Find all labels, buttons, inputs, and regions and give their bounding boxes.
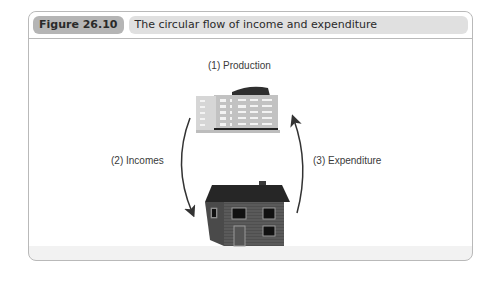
production-label: (1) Production bbox=[208, 60, 271, 71]
circular-flow-diagram bbox=[0, 0, 502, 285]
office-building-icon bbox=[196, 87, 280, 133]
expenditure-flow-arrow bbox=[294, 120, 303, 213]
expenditure-label: (3) Expenditure bbox=[313, 155, 381, 166]
incomes-label: (2) Incomes bbox=[111, 155, 164, 166]
house-icon bbox=[205, 181, 290, 246]
incomes-flow-arrow bbox=[181, 118, 192, 212]
